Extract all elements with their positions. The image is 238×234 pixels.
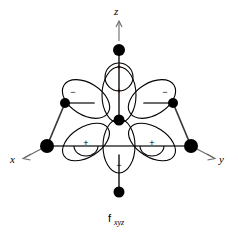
x-axis-group: x <box>9 149 41 165</box>
upper-left-vertex <box>60 98 70 108</box>
caption-symbol: f <box>108 212 112 224</box>
sign-lower-left: + <box>83 138 88 148</box>
bottom-vertex <box>114 187 125 198</box>
z-axis-label: z <box>113 5 119 17</box>
sign-lower-right: + <box>149 138 154 148</box>
sign-upper-center: + <box>116 86 121 96</box>
orbital-diagram-canvas: z x y <box>0 0 238 234</box>
right-y-vertex <box>184 139 198 153</box>
upper-right-vertex <box>168 98 178 108</box>
x-axis-label: x <box>9 153 15 165</box>
orbital-figure: z x y <box>0 0 238 234</box>
top-z-vertex <box>113 44 125 56</box>
y-axis-label: y <box>218 153 224 165</box>
z-axis-group: z <box>113 5 122 41</box>
center-nucleus <box>114 115 125 126</box>
y-axis-group: y <box>197 149 224 165</box>
sign-bottom-cap: − <box>116 160 121 170</box>
caption-subscript: xyz <box>113 218 125 227</box>
sign-top-cap: + <box>116 62 121 72</box>
left-x-vertex <box>40 139 54 153</box>
sign-upper-right: − <box>162 87 167 97</box>
sign-upper-left: − <box>70 87 75 97</box>
figure-caption: f xyz <box>108 212 125 227</box>
